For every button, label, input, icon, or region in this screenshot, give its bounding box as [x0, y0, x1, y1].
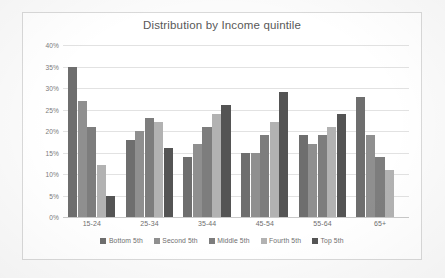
bar: [385, 170, 394, 217]
legend-swatch-icon: [100, 238, 106, 244]
y-tick-label: 5%: [49, 192, 59, 199]
x-tick-label-55-64: 55-64: [294, 220, 352, 227]
bar: [327, 127, 336, 217]
legend-swatch-icon: [209, 238, 215, 244]
bar: [126, 140, 135, 217]
chart-frame: Distribution by Income quintile 0%5%10%1…: [22, 12, 422, 260]
bar-group: [356, 45, 404, 217]
bar-group: [126, 45, 174, 217]
bar: [183, 157, 192, 217]
bar: [241, 153, 250, 218]
bar: [212, 114, 221, 217]
legend-label: Middle 5th: [217, 237, 249, 244]
bar-group: [241, 45, 289, 217]
bar: [251, 153, 260, 218]
bar: [337, 114, 346, 217]
x-tick-label-25-34: 25-34: [121, 220, 179, 227]
bar-group: [299, 45, 347, 217]
x-tick-label-15-24: 15-24: [63, 220, 121, 227]
bar: [299, 135, 308, 217]
y-tick-label: 0%: [49, 214, 59, 221]
bar: [221, 105, 230, 217]
legend-item[interactable]: Middle 5th: [209, 237, 250, 244]
bar: [87, 127, 96, 217]
legend-item[interactable]: Top 5th: [312, 237, 344, 244]
bars-layer: [63, 45, 409, 217]
y-tick-label: 10%: [46, 171, 60, 178]
y-tick-label: 15%: [46, 149, 60, 156]
bar: [193, 144, 202, 217]
bar: [202, 127, 211, 217]
bar: [270, 122, 279, 217]
plot-area: 0%5%10%15%20%25%30%35%40%: [63, 45, 409, 217]
bar: [260, 135, 269, 217]
bar: [154, 122, 163, 217]
legend-item[interactable]: Bottom 5th: [100, 237, 142, 244]
bar-group: [68, 45, 116, 217]
bar: [308, 144, 317, 217]
y-tick-label: 40%: [46, 42, 60, 49]
bar: [106, 196, 115, 218]
y-tick-label: 30%: [46, 85, 60, 92]
bar: [318, 135, 327, 217]
bar: [164, 148, 173, 217]
legend-label: Fourth 5th: [269, 237, 301, 244]
bar: [366, 135, 375, 217]
y-tick-label: 25%: [46, 106, 60, 113]
chart-title: Distribution by Income quintile: [23, 19, 421, 31]
chart-legend: Bottom 5thSecond 5thMiddle 5thFourth 5th…: [23, 237, 421, 244]
x-tick-label-45-54: 45-54: [236, 220, 294, 227]
y-tick-label: 35%: [46, 63, 60, 70]
bar: [97, 165, 106, 217]
bar: [135, 131, 144, 217]
legend-label: Top 5th: [321, 237, 344, 244]
bar: [145, 118, 154, 217]
legend-swatch-icon: [154, 238, 160, 244]
bar: [68, 67, 77, 218]
legend-item[interactable]: Second 5th: [154, 237, 198, 244]
bar: [375, 157, 384, 217]
bar: [356, 97, 365, 217]
x-tick-label-65+: 65+: [351, 220, 409, 227]
legend-item[interactable]: Fourth 5th: [261, 237, 301, 244]
legend-swatch-icon: [312, 238, 318, 244]
y-tick-label: 20%: [46, 128, 60, 135]
legend-label: Second 5th: [162, 237, 197, 244]
x-tick-label-35-44: 35-44: [178, 220, 236, 227]
scanned-page: Distribution by Income quintile 0%5%10%1…: [0, 0, 445, 278]
bar: [78, 101, 87, 217]
legend-label: Bottom 5th: [109, 237, 143, 244]
bar-group: [183, 45, 231, 217]
x-axis-tick-labels: 15-2425-3435-4445-5455-6465+: [63, 220, 409, 234]
gridline-0%: [63, 217, 409, 218]
bar: [279, 92, 288, 217]
legend-swatch-icon: [261, 238, 267, 244]
